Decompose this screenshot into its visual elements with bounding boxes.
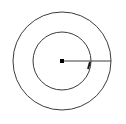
center-point-marker xyxy=(60,59,64,63)
figure-canvas xyxy=(0,0,126,124)
concentric-circles-diagram xyxy=(0,0,126,124)
